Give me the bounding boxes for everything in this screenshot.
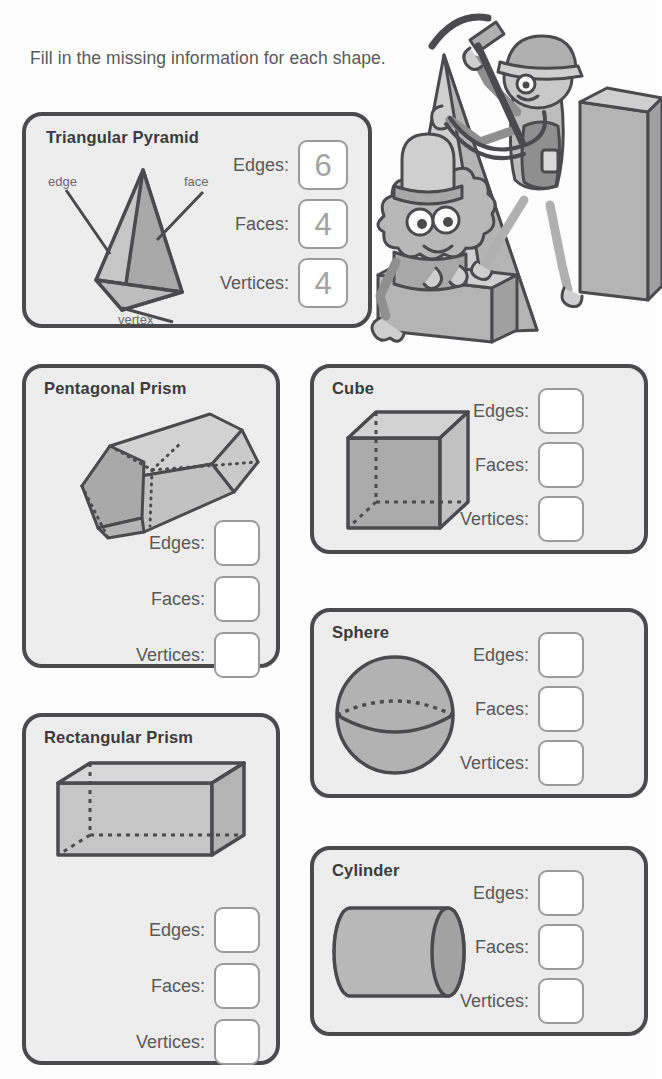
- card-title-triangular-pyramid: Triangular Pyramid: [46, 128, 199, 147]
- answer-row-faces: Faces:: [460, 442, 584, 488]
- answers-sphere: Edges: Faces: Vertices:: [460, 632, 584, 786]
- answer-box-faces[interactable]: 4: [298, 199, 348, 249]
- shape-card-triangular-pyramid: Triangular Pyramid edge face vertex Edge…: [22, 112, 372, 328]
- label-faces: Faces:: [235, 214, 289, 235]
- label-vertices: Vertices:: [460, 991, 529, 1012]
- answer-row-edges: Edges:: [460, 870, 584, 916]
- answer-box-vertices[interactable]: [538, 978, 584, 1024]
- answer-row-faces: Faces:: [136, 576, 260, 622]
- answer-box-vertices[interactable]: [214, 1019, 260, 1065]
- label-vertices: Vertices:: [460, 753, 529, 774]
- answers-cube: Edges: Faces: Vertices:: [460, 388, 584, 542]
- label-edges: Edges:: [149, 533, 205, 554]
- shape-cylinder: [330, 896, 480, 1006]
- answer-row-edges: Edges:: [460, 632, 584, 678]
- shape-card-sphere: Sphere Edges: Faces: Vertices:: [310, 608, 648, 798]
- answers-pentagonal-prism: Edges: Faces: Vertices:: [136, 520, 260, 678]
- label-vertices: Vertices:: [460, 509, 529, 530]
- answers-rectangular-prism: Edges: Faces: Vertices:: [136, 907, 260, 1065]
- card-title-pentagonal-prism: Pentagonal Prism: [44, 379, 187, 398]
- answer-row-vertices: Vertices:: [460, 496, 584, 542]
- answer-box-faces[interactable]: [538, 686, 584, 732]
- label-edges: Edges:: [473, 401, 529, 422]
- card-title-cube: Cube: [332, 379, 374, 398]
- answer-box-vertices[interactable]: [214, 632, 260, 678]
- label-faces: Faces:: [475, 699, 529, 720]
- instruction-text: Fill in the missing information for each…: [30, 48, 386, 69]
- label-faces: Faces:: [475, 937, 529, 958]
- answer-box-faces[interactable]: [214, 576, 260, 622]
- label-faces: Faces:: [151, 976, 205, 997]
- label-faces: Faces:: [151, 589, 205, 610]
- answer-row-vertices: Vertices:: [136, 632, 260, 678]
- card-title-sphere: Sphere: [332, 623, 389, 642]
- card-title-rectangular-prism: Rectangular Prism: [44, 728, 193, 747]
- shape-card-cylinder: Cylinder Edges: Faces: Vertices:: [310, 846, 648, 1036]
- label-vertices: Vertices:: [136, 1032, 205, 1053]
- label-edges: Edges:: [473, 883, 529, 904]
- answer-row-faces: Faces:: [136, 963, 260, 1009]
- answer-box-edges[interactable]: [214, 520, 260, 566]
- shape-card-cube: Cube Edges: Faces: Verti: [310, 364, 648, 554]
- answer-row-vertices: Vertices: 4: [220, 258, 348, 308]
- label-vertices: Vertices:: [220, 273, 289, 294]
- shape-card-pentagonal-prism: Pentagonal Prism: [22, 364, 280, 668]
- answer-row-vertices: Vertices:: [460, 978, 584, 1024]
- answer-row-vertices: Vertices:: [136, 1019, 260, 1065]
- answer-box-edges[interactable]: [538, 388, 584, 434]
- label-edges: Edges:: [149, 920, 205, 941]
- answer-box-vertices[interactable]: [538, 496, 584, 542]
- answer-box-faces[interactable]: [538, 924, 584, 970]
- answer-row-faces: Faces: 4: [220, 199, 348, 249]
- answer-box-edges[interactable]: 6: [298, 140, 348, 190]
- shape-card-rectangular-prism: Rectangular Prism Edges: Faces:: [22, 713, 280, 1065]
- answer-row-faces: Faces:: [460, 924, 584, 970]
- label-faces: Faces:: [475, 455, 529, 476]
- annotation-face: face: [184, 174, 209, 189]
- label-edges: Edges:: [473, 645, 529, 666]
- answer-row-faces: Faces:: [460, 686, 584, 732]
- answers-triangular-pyramid: Edges: 6 Faces: 4 Vertices: 4: [220, 140, 348, 308]
- answer-row-vertices: Vertices:: [460, 740, 584, 786]
- card-title-cylinder: Cylinder: [332, 861, 400, 880]
- answer-row-edges: Edges:: [136, 520, 260, 566]
- answer-box-vertices[interactable]: [538, 740, 584, 786]
- shape-rectangular-prism: [48, 759, 258, 869]
- shape-cube: [334, 406, 474, 536]
- answers-cylinder: Edges: Faces: Vertices:: [460, 870, 584, 1024]
- answer-row-edges: Edges: 6: [220, 140, 348, 190]
- answer-row-edges: Edges:: [136, 907, 260, 953]
- answer-box-faces[interactable]: [538, 442, 584, 488]
- answer-box-faces[interactable]: [214, 963, 260, 1009]
- illustration: [372, 0, 662, 360]
- answer-box-edges[interactable]: [214, 907, 260, 953]
- answer-box-edges[interactable]: [538, 632, 584, 678]
- shape-sphere: [330, 650, 460, 780]
- label-edges: Edges:: [233, 155, 289, 176]
- annotation-edge: edge: [48, 174, 77, 189]
- annotation-vertex: vertex: [118, 312, 153, 327]
- answer-row-edges: Edges:: [460, 388, 584, 434]
- answer-box-vertices[interactable]: 4: [298, 258, 348, 308]
- label-vertices: Vertices:: [136, 645, 205, 666]
- answer-box-edges[interactable]: [538, 870, 584, 916]
